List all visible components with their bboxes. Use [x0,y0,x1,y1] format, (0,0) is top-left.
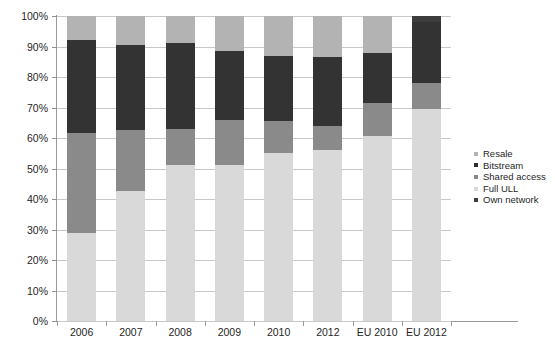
x-axis-tick-label: EU 2012 [406,326,447,338]
y-axis-tick-label: 80% [27,71,48,83]
y-tick-mark [52,47,57,48]
bar-segment-bitstream [313,16,342,57]
bar-2008 [166,16,195,321]
bar-segment-shared-access [116,45,145,130]
x-tick-mark [106,321,107,326]
y-tick-mark [52,291,57,292]
bar-segment-bitstream [166,16,195,43]
bar-segment-shared-access [215,51,244,120]
y-axis-tick-label: 70% [27,102,48,114]
bar-segment-shared-access [264,56,293,122]
bar-segment-shared-access [166,43,195,128]
x-tick-mark [451,321,452,326]
bar-segment-bitstream [363,16,392,53]
bar-segment-shared-access [363,53,392,103]
y-axis-tick-label: 100% [21,10,48,22]
bar-segment-full-ull [412,83,441,109]
bar-segment-full-ull [264,121,293,153]
y-tick-mark [52,199,57,200]
legend-item-label: Full ULL [483,183,518,195]
legend-swatch-icon [474,152,478,156]
y-axis-tick-label: 60% [27,132,48,144]
x-tick-mark [303,321,304,326]
bar-segment-bitstream [116,16,145,45]
y-tick-mark [52,138,57,139]
x-tick-mark [57,321,58,326]
y-axis-tick-label: 0% [33,315,48,327]
bar-segment-full-ull [363,103,392,137]
bar-segment-full-ull [166,129,195,166]
plot-area: 0%10%20%30%40%50%60%70%80%90%100% [57,16,451,321]
x-axis-tick-label: 2006 [70,326,93,338]
x-tick-mark [205,321,206,326]
y-tick-mark [52,108,57,109]
x-tick-mark [402,321,403,326]
bar-segment-shared-access [67,40,96,133]
chart-legend: ResaleBitstreamShared accessFull ULLOwn … [474,148,546,206]
bar-segment-own-network [363,136,392,321]
bar-2007 [116,16,145,321]
y-axis-tick-label: 90% [27,41,48,53]
x-axis-tick-label: 2007 [119,326,142,338]
legend-item-own-network[interactable]: Own network [474,194,546,206]
y-axis-tick-label: 20% [27,254,48,266]
x-axis-tick-label: 2008 [168,326,191,338]
legend-item-label: Shared access [483,171,546,183]
legend-item-bitstream[interactable]: Bitstream [474,160,546,172]
bar-segment-own-network [67,233,96,321]
y-axis-tick-label: 50% [27,163,48,175]
x-axis-tick-label: EU 2010 [357,326,398,338]
bar-segment-own-network [313,150,342,321]
bar-segment-full-ull [313,126,342,150]
stacked-bar-chart: 0%10%20%30%40%50%60%70%80%90%100% Resale… [0,0,555,354]
y-tick-mark [52,230,57,231]
legend-swatch-icon [474,198,478,202]
bar-2006 [67,16,96,321]
bar-2009 [215,16,244,321]
bar-segment-own-network [412,109,441,321]
bar-segment-full-ull [116,130,145,191]
bar-segment-bitstream [67,16,96,40]
y-axis-tick-label: 40% [27,193,48,205]
legend-swatch-icon [474,175,478,179]
y-tick-mark [52,260,57,261]
x-tick-mark [254,321,255,326]
bar-segment-own-network [166,165,195,321]
x-tick-mark [156,321,157,326]
x-axis-tick-label: 2010 [267,326,290,338]
x-axis-tick-label: 2009 [218,326,241,338]
bar-segment-full-ull [67,133,96,232]
legend-item-label: Bitstream [483,160,523,172]
bar-segment-shared-access [313,57,342,126]
legend-swatch-icon [474,163,478,167]
bar-segment-bitstream [215,16,244,51]
x-tick-mark [353,321,354,326]
y-axis-tick-label: 10% [27,285,48,297]
legend-item-resale[interactable]: Resale [474,148,546,160]
y-tick-mark [52,77,57,78]
y-axis-tick-label: 30% [27,224,48,236]
bar-eu-2012 [412,16,441,321]
bar-2010 [264,16,293,321]
x-axis-tick-label: 2012 [316,326,339,338]
y-tick-mark [52,169,57,170]
bar-2012 [313,16,342,321]
y-tick-mark [52,16,57,17]
legend-item-full-ull[interactable]: Full ULL [474,183,546,195]
legend-swatch-icon [474,187,478,191]
bar-segment-own-network [116,191,145,321]
bar-segment-shared-access [412,22,441,83]
bar-segment-own-network [264,153,293,321]
bar-segment-full-ull [215,120,244,166]
bar-segment-bitstream [264,16,293,56]
legend-item-shared-access[interactable]: Shared access [474,171,546,183]
bar-eu-2010 [363,16,392,321]
legend-item-label: Own network [483,194,538,206]
legend-item-label: Resale [483,148,513,160]
bar-segment-own-network [215,165,244,321]
